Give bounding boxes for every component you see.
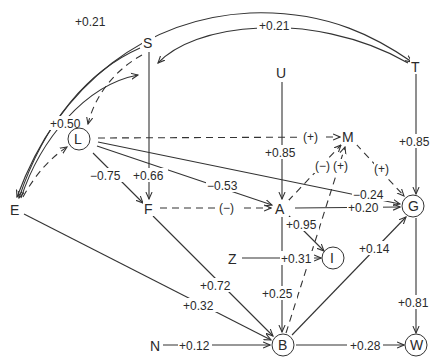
node-b: B [272,334,294,356]
edge-label-f-a: (−) [218,201,240,215]
node-t: T [410,58,422,75]
svg-text:F: F [144,201,153,217]
edge-label-g-w: +0.81 [397,295,433,310]
edge-label-a-i: +0.95 [285,217,319,232]
node-g: G [402,195,424,217]
node-a: A [274,200,289,217]
svg-text:+0.85: +0.85 [265,146,296,160]
svg-text:W: W [410,337,424,353]
svg-text:U: U [276,65,286,81]
edge-label-a-b: +0.25 [261,286,297,301]
edge-label-e-t: +0.21 [73,15,107,29]
svg-text:(−): (−) [219,201,234,215]
svg-text:T: T [411,59,420,75]
edge-label-l-a: −0.53 [206,178,240,193]
edge-e-b [24,214,271,340]
svg-text:+0.12: +0.12 [179,339,210,353]
svg-text:Z: Z [228,251,237,267]
svg-text:+0.20: +0.20 [348,201,379,215]
svg-text:+0.81: +0.81 [398,296,429,310]
edge-b-g [292,217,406,335]
diagram-canvas: +0.21 +0.21 +0.50 (+) −0.75 +0.66 −0.53 … [0,0,439,364]
node-e: E [9,201,22,218]
edge-label-m-g: (+) [374,162,394,176]
path-diagram: +0.21 +0.21 +0.50 (+) −0.75 +0.66 −0.53 … [0,0,439,364]
node-i: I [322,247,344,269]
edge-label-a-g: +0.20 [347,201,383,215]
svg-text:(+): (+) [303,130,318,144]
svg-text:+0.21: +0.21 [259,19,290,33]
svg-text:+0.21: +0.21 [75,15,106,29]
svg-text:+0.32: +0.32 [183,299,214,313]
edge-label-l-m: (+) [302,130,324,144]
edge-label-t-g: +0.85 [398,134,434,149]
svg-text:+0.72: +0.72 [200,279,231,293]
edge-b-m [286,147,345,333]
svg-text:(−): (−) [315,159,330,173]
node-f: F [143,200,156,217]
edge-label-a-m: (−) [314,159,334,173]
svg-text:+0.25: +0.25 [262,287,293,301]
svg-text:M: M [342,129,354,145]
svg-text:A: A [275,201,285,217]
edge-label-s-f: +0.66 [132,168,168,183]
edge-label-l-g: −0.24 [352,187,388,202]
edge-label-n-b: +0.12 [178,338,212,353]
svg-text:+0.28: +0.28 [350,339,381,353]
edge-f-b [153,216,273,336]
svg-text:(+): (+) [374,162,389,176]
edge-label-z-i: +0.31 [280,251,314,266]
svg-text:+0.66: +0.66 [133,169,164,183]
svg-text:G: G [408,198,419,214]
edge-s-l [88,55,142,124]
svg-text:+0.14: +0.14 [359,242,390,256]
edge-label-t-s: +0.21 [257,19,291,33]
edge-label-u-a: +0.85 [264,145,300,160]
svg-text:+0.85: +0.85 [399,135,430,149]
edge-label-l-f: −0.75 [89,168,125,183]
node-w: W [405,334,427,356]
node-m: M [341,129,357,145]
node-s: S [142,34,155,51]
svg-text:+0.31: +0.31 [281,252,312,266]
edge-label-e-b: +0.32 [182,298,218,313]
edge-label-b-w: +0.28 [347,338,383,353]
svg-text:+0.95: +0.95 [286,218,317,232]
node-z: Z [227,250,240,267]
svg-text:L: L [74,131,82,147]
edge-label-b-g: +0.14 [358,241,392,256]
svg-text:I: I [330,250,334,266]
node-n: N [149,337,162,354]
svg-text:−0.75: −0.75 [90,169,121,183]
svg-text:(+): (+) [333,159,348,173]
node-u: U [275,64,288,81]
svg-text:B: B [278,337,287,353]
svg-text:S: S [143,35,152,51]
svg-text:−0.53: −0.53 [207,179,238,193]
svg-text:E: E [10,202,19,218]
edge-e-l [23,147,67,197]
edge-label-b-m: (+) [333,159,353,173]
svg-text:N: N [150,338,160,354]
svg-text:−0.24: −0.24 [353,188,384,202]
node-l: L [68,128,90,150]
edge-label-f-b: +0.72 [199,278,235,293]
